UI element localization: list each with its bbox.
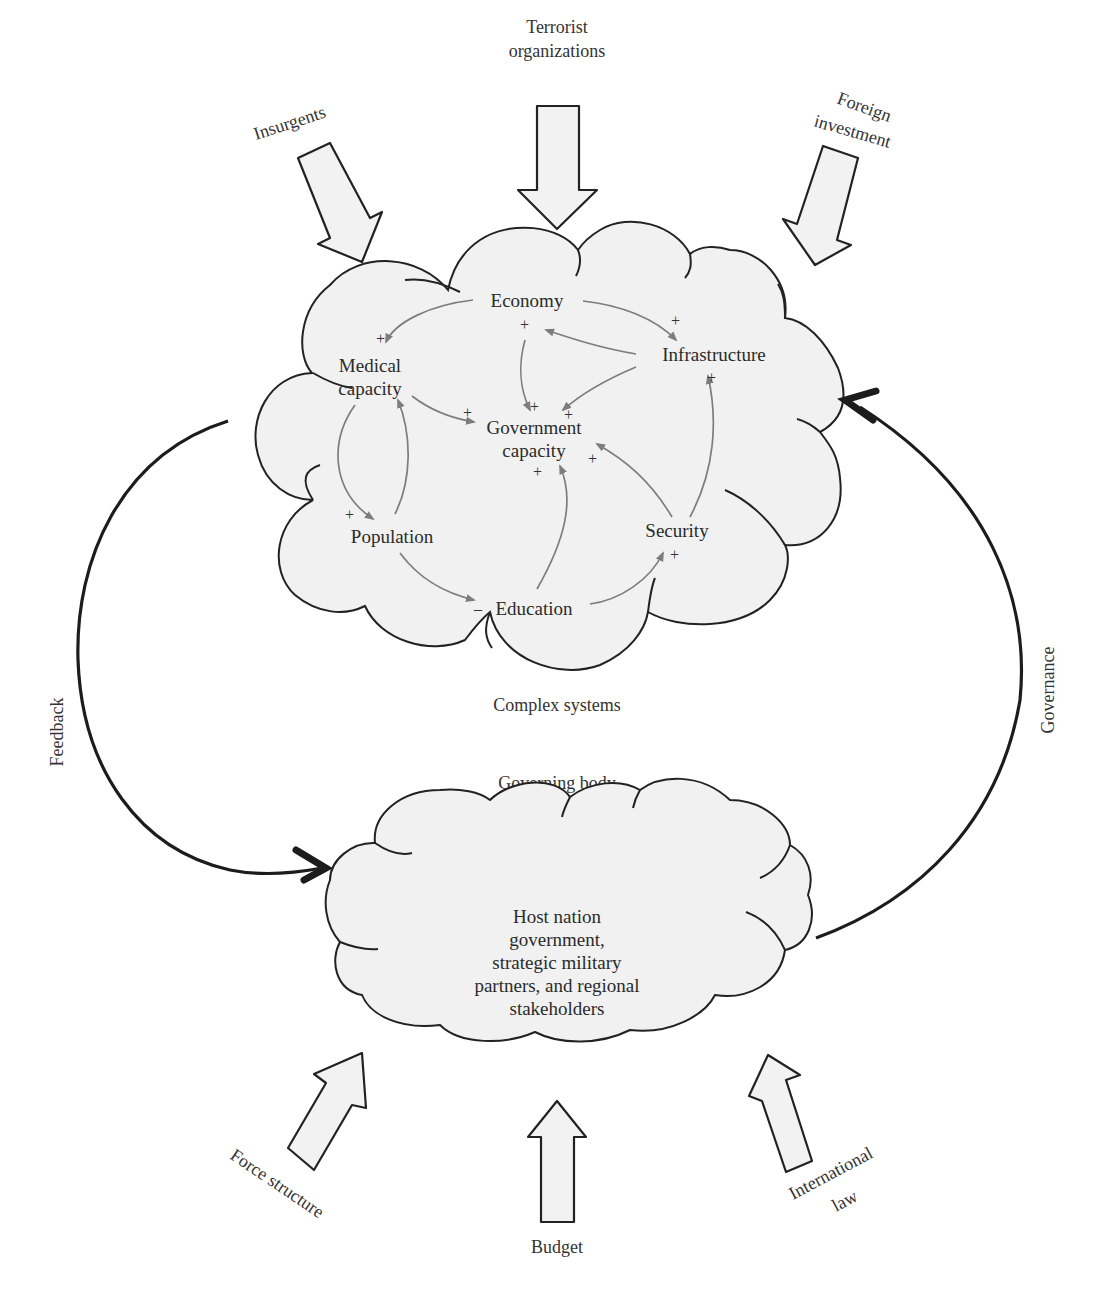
node-infrastructure: Infrastructure xyxy=(662,344,765,365)
feedback-label: Feedback xyxy=(47,698,67,767)
governing-body-text-line4: partners, and regional xyxy=(474,975,639,996)
complex-systems-caption: Complex systems xyxy=(493,695,621,715)
governance-label: Governance xyxy=(1038,647,1058,734)
node-security: Security xyxy=(645,520,709,541)
node-government-capacity-line2: capacity xyxy=(502,440,566,461)
sign-plus: + xyxy=(670,546,679,563)
node-medical-capacity-line2: capacity xyxy=(338,378,402,399)
feedback-arrowhead xyxy=(296,850,326,880)
insurgents-label: Insurgents xyxy=(251,102,328,144)
force-structure-input-arrow xyxy=(288,1053,366,1170)
governing-body-text-line1: Host nation xyxy=(513,906,602,927)
sign-minus: – xyxy=(473,600,483,617)
terrorist-organizations-label-line2: organizations xyxy=(509,41,606,61)
budget-label: Budget xyxy=(531,1237,583,1257)
sign-plus: + xyxy=(345,506,354,523)
sign-plus: + xyxy=(588,450,597,467)
governing-body-text-line2: government, xyxy=(509,929,605,950)
sign-plus: + xyxy=(707,369,716,386)
sign-plus: + xyxy=(520,316,529,333)
node-population: Population xyxy=(351,526,434,547)
foreign-investment-input-arrow xyxy=(783,146,858,265)
sign-plus: + xyxy=(463,404,472,421)
international-law-label-line2: law xyxy=(828,1186,860,1216)
governing-body-text-line3: strategic military xyxy=(492,952,622,973)
sign-plus: + xyxy=(533,463,542,480)
sign-plus: + xyxy=(671,312,680,329)
governing-body-text-line5: stakeholders xyxy=(510,998,605,1019)
terrorist-organizations-label-line1: Terrorist xyxy=(526,17,588,37)
sign-plus: + xyxy=(530,398,539,415)
governance-systems-diagram: Insurgents Terrorist organizations Forei… xyxy=(0,0,1095,1295)
node-medical-capacity-line1: Medical xyxy=(339,355,401,376)
budget-input-arrow xyxy=(528,1101,586,1222)
sign-plus: + xyxy=(376,330,385,347)
node-economy: Economy xyxy=(491,290,564,311)
international-law-input-arrow xyxy=(749,1055,812,1172)
governance-loop-arrow xyxy=(816,391,1021,938)
sign-plus: + xyxy=(564,406,573,423)
node-education: Education xyxy=(495,598,573,619)
insurgents-input-arrow xyxy=(298,143,382,262)
governance-arrowhead xyxy=(845,391,876,420)
terrorist-organizations-input-arrow xyxy=(518,106,597,229)
